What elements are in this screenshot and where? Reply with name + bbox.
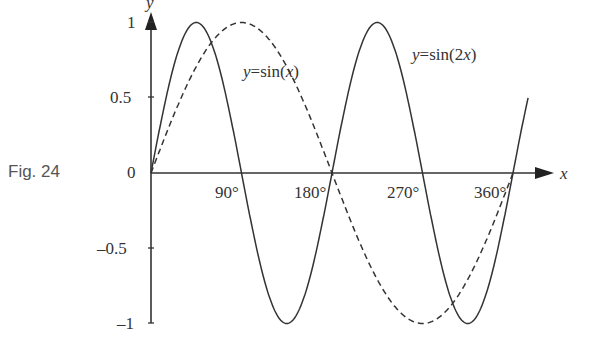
y-tick-neg0.5: –0.5 — [96, 239, 127, 258]
x-tick-90: 90° — [215, 183, 239, 202]
y-tick-neg1: –1 — [116, 314, 134, 333]
y-tick-0: 0 — [127, 163, 136, 182]
x-tick-270: 270° — [387, 183, 419, 202]
x-axis-label: x — [559, 164, 568, 183]
y-tick-0.5: 0.5 — [110, 88, 131, 107]
y-axis-label: y — [144, 0, 154, 12]
y-tick-1: 1 — [127, 13, 136, 32]
y-axis-arrow-icon — [145, 12, 157, 30]
x-tick-180: 180° — [294, 183, 326, 202]
sine-chart: 1 0.5 0 –0.5 –1 90° 180° 270° 360° y x y… — [0, 0, 595, 351]
annotation-sin2x: y=sin(2x) — [410, 45, 476, 64]
x-tick-360: 360° — [474, 183, 506, 202]
x-axis-arrow-icon — [535, 167, 554, 179]
